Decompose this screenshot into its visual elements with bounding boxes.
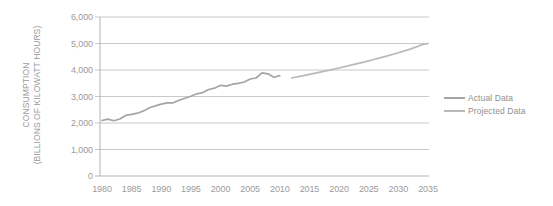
x-axis-tick-label: 1995 xyxy=(175,184,207,195)
x-axis-tick-label: 1985 xyxy=(116,184,148,195)
actual-data-line-swatch xyxy=(444,97,465,99)
x-axis-tick-label: 2015 xyxy=(293,184,325,195)
y-axis-tick-label: 0 xyxy=(53,171,93,181)
x-axis-tick-label: 1980 xyxy=(86,184,118,195)
y-axis-tick-label: 5,000 xyxy=(53,39,93,49)
projected-data-line-swatch xyxy=(444,110,465,112)
x-axis-tick-label: 2010 xyxy=(264,184,296,195)
x-axis-tick-label: 2005 xyxy=(234,184,266,195)
legend-item-projected-data: Projected Data xyxy=(444,106,526,115)
y-axis-tick-label: 3,000 xyxy=(53,92,93,102)
legend-label-projected-data: Projected Data xyxy=(468,106,526,116)
projected-data-line xyxy=(292,44,428,79)
y-axis-tick-label: 6,000 xyxy=(53,12,93,22)
x-axis-tick-label: 2000 xyxy=(205,184,237,195)
electricity-consumption-chart: CONSUMPTION (BILLIONS OF KILOWATT HOURS)… xyxy=(0,0,553,206)
x-axis-tick-label: 2035 xyxy=(412,184,444,195)
y-axis-title-line2: (BILLIONS OF KILOWATT HOURS) xyxy=(31,26,42,165)
x-axis-tick-label: 2020 xyxy=(323,184,355,195)
y-axis-tick-label: 1,000 xyxy=(53,145,93,155)
y-axis-title: CONSUMPTION (BILLIONS OF KILOWATT HOURS) xyxy=(21,26,42,165)
x-axis-tick-label: 2030 xyxy=(382,184,414,195)
x-axis-tick-label: 2025 xyxy=(353,184,385,195)
x-axis-tick-label: 1990 xyxy=(145,184,177,195)
y-axis-tick-label: 2,000 xyxy=(53,118,93,128)
legend: Actual Data Projected Data xyxy=(444,93,526,119)
y-axis-title-line1: CONSUMPTION xyxy=(21,26,32,165)
y-axis-tick-label: 4,000 xyxy=(53,65,93,75)
legend-label-actual-data: Actual Data xyxy=(468,93,513,103)
legend-item-actual-data: Actual Data xyxy=(444,93,526,102)
